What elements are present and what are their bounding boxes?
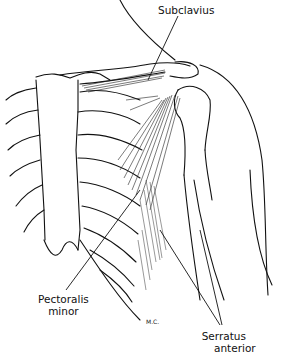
- label-subclavius: Subclavius: [158, 4, 214, 16]
- label-line: Serratus: [192, 330, 256, 342]
- label-line: anterior: [192, 342, 256, 354]
- artist-signature: M.C.: [146, 318, 159, 325]
- label-line: Subclavius: [158, 4, 214, 16]
- label-pectoralis-minor: Pectoralis minor: [38, 293, 89, 317]
- label-line: minor: [38, 305, 89, 317]
- leader-pectoralis-minor: [66, 190, 140, 290]
- label-line: Pectoralis: [38, 293, 89, 305]
- label-serratus-anterior: Serratus anterior: [192, 330, 256, 354]
- anatomy-diagram: Subclavius Pectoralis minor Serratus ant…: [0, 0, 284, 361]
